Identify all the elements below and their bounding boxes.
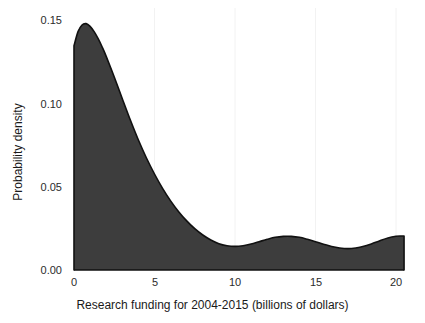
x-tick-label-1: 5: [140, 276, 170, 288]
plot-canvas: [0, 0, 425, 323]
density-plot-figure: 0.00 0.05 0.10 0.15 0 5 10 15 20 Researc…: [0, 0, 425, 323]
x-axis-title: Research funding for 2004-2015 (billions…: [0, 298, 425, 312]
density-area-fill: [74, 24, 404, 270]
y-tick-label-0: 0.00: [18, 264, 62, 276]
y-axis-title: Probability density: [11, 72, 25, 232]
y-tick-label-3: 0.15: [18, 14, 62, 26]
x-tick-label-3: 15: [301, 276, 331, 288]
x-tick-label-2: 10: [220, 276, 250, 288]
x-tick-label-0: 0: [59, 276, 89, 288]
x-tick-label-4: 20: [381, 276, 411, 288]
